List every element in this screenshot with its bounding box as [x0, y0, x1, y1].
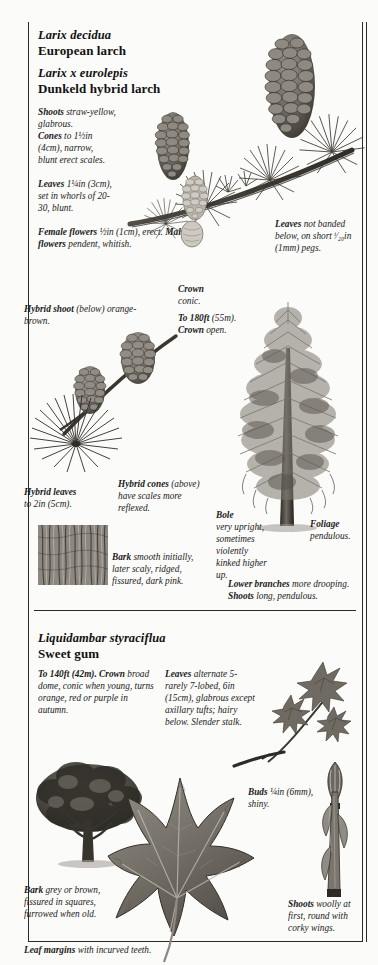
larch-crown-label: Crown	[178, 284, 204, 294]
sweetgum-shoots-caption: Shoots woolly at first, round with corky…	[288, 898, 370, 934]
sweetgum-heading-block: Liquidambar styraciflua Sweet gum	[38, 631, 248, 662]
sweetgum-height-caption: To 140ft (42m). Crown broad dome, conic …	[38, 668, 158, 716]
sweetgum-leaf-margins-label: Leaf margins	[24, 945, 75, 955]
larch-hybrid-cones-label: Hybrid cones	[118, 479, 169, 489]
larch-hybrid-cones-caption: Hybrid cones (above) have scales more re…	[118, 478, 210, 514]
larch-lower-branches-label: Lower branches	[228, 579, 290, 589]
sweetgum-leaf-margins-text: with incurved teeth.	[75, 945, 151, 955]
larch-cones-label: Cones	[38, 131, 62, 141]
larch-hybrid-shoot-label: Hybrid shoot	[24, 304, 74, 314]
sweetgum-leaf-svg	[108, 770, 258, 965]
sweetgum-leaf-margins-caption: Leaf margins with incurved teeth.	[24, 944, 234, 956]
larch-bark-label: Bark	[112, 552, 131, 562]
larch-bole-label: Bole	[216, 510, 234, 520]
larch-leaves-label: Leaves	[38, 179, 64, 189]
sweetgum-scientific-name: Liquidambar styraciflua	[38, 631, 248, 646]
larch-cones-description: Cones to 1½in (4cm), narrow, blunt erect…	[38, 130, 108, 166]
larch-hybrid-shoot-illustration	[24, 330, 204, 480]
larch-lower-branches-caption: Lower branches more drooping. Shoots lon…	[228, 578, 368, 602]
larch-foliage-caption: Foliage pendulous.	[310, 518, 370, 542]
sweetgum-leaf-illustration	[108, 770, 258, 965]
sweetgum-bark-label: Bark	[24, 885, 43, 895]
larch-leaves-banding-label: Leaves	[275, 219, 301, 229]
larch-bole-caption: Bole very upright, sometimes violently k…	[216, 509, 268, 581]
field-guide-page: Larix decidua European larch Larix x eur…	[0, 0, 378, 965]
sweetgum-twig-illustration	[232, 750, 288, 772]
larch-crown-text: conic.	[178, 296, 200, 306]
larch-hybrid-leaves-text: to 2in (5cm).	[24, 499, 72, 509]
larch-leaves-description: Leaves 1¼in (3cm), set in whorls of 20-3…	[38, 178, 116, 214]
larch-shoots-long-text: long, pendulous.	[254, 591, 318, 601]
sweetgum-height-label: To 140ft (42m). Crown	[38, 669, 125, 679]
sweetgum-corky-shoot-illustration	[312, 790, 356, 900]
sweetgum-leaves-caption: Leaves alternate 5- rarely 7-lobed, 6in …	[165, 668, 257, 728]
larch-shoots-label: Shoots	[38, 107, 64, 117]
larch-height-label: To 180ft	[178, 313, 209, 323]
larch-hybrid-leaves-caption: Hybrid leaves to 2in (5cm).	[24, 486, 119, 510]
larch-foliage-text: pendulous.	[310, 531, 351, 541]
larch-hybrid-leaves-label: Hybrid leaves	[24, 487, 76, 497]
corky-shoot-svg	[312, 790, 356, 900]
page-border-right-outer	[366, 22, 367, 942]
twig-svg	[232, 750, 288, 772]
larch-lower-branches-text: more drooping.	[290, 579, 349, 589]
bark-swatch-svg	[38, 525, 108, 585]
sweetgum-leaves-label: Leaves	[165, 669, 191, 679]
larch-foliage-label: Foliage	[310, 519, 339, 529]
larch-bole-text: very upright, sometimes violently kinked…	[216, 522, 267, 580]
larch-crown-open-label: Crown	[178, 325, 204, 335]
larch-hybrid-shoot-caption: Hybrid shoot (below) orange-brown.	[24, 303, 142, 327]
larch-bark-illustration	[38, 525, 108, 585]
sweetgum-common-name: Sweet gum	[38, 646, 248, 662]
section-divider	[34, 610, 356, 611]
larch-female-flowers-label: Female flowers	[38, 227, 97, 237]
page-border-left	[28, 22, 29, 942]
sweetgum-shoots-label: Shoots	[288, 899, 314, 909]
larch-bark-caption: Bark smooth initially, later scaly, ridg…	[112, 551, 202, 587]
larch-shoots-description: Shoots straw-yellow, glabrous.	[38, 106, 116, 130]
hybrid-shoot-svg	[24, 330, 204, 480]
larch-leaves-banding-caption: Leaves not banded below, on short ⁱ⁄₂₀in…	[275, 218, 367, 254]
larch-shoots-long-label: Shoots	[228, 591, 254, 601]
